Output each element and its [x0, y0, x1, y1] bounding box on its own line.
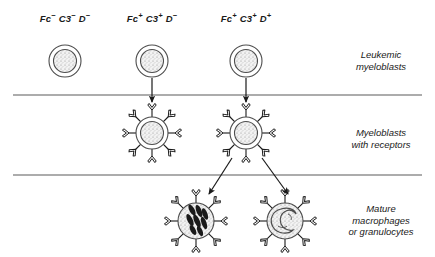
arrow-branch-left [209, 158, 232, 194]
cell-blast-3 [230, 45, 262, 77]
column-header-fc-pos-d-neg: Fc+ C3+ D− [127, 13, 178, 24]
row-label-line: Leukemic [356, 49, 406, 61]
row-label-line: macrophages [349, 214, 414, 226]
row-label-line: Myeloblasts [351, 127, 410, 139]
column-header-fc-pos-d-pos: Fc+ C3+ D+ [221, 13, 272, 24]
column-header-fc-neg: Fc− C3− D− [40, 13, 91, 24]
row-label-line: Mature [349, 203, 414, 215]
cell-receptor-1 [122, 103, 181, 162]
figure-root: Fc− C3− D− Fc+ C3+ D− Fc+ C3+ D+ Leukemi… [0, 0, 435, 257]
row-label-mature: Mature macrophages or granulocytes [349, 203, 414, 238]
row-label-receptors: Myeloblasts with receptors [351, 127, 410, 150]
cell-blast-1 [49, 45, 81, 77]
cell-macrophage [253, 189, 316, 252]
row-label-line: myeloblasts [356, 60, 406, 72]
cell-granulocyte [164, 189, 227, 252]
row-label-line: with receptors [351, 138, 410, 150]
row-label-line: or granulocytes [349, 226, 414, 238]
cell-blast-2 [136, 45, 168, 77]
cell-receptor-2 [216, 103, 275, 162]
row-label-leukemic: Leukemic myeloblasts [356, 49, 406, 72]
arrow-branch-right [262, 158, 288, 194]
